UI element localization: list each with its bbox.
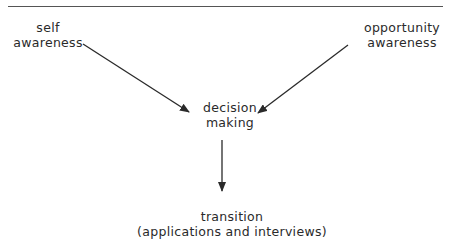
arrow-opportunity-to-decision bbox=[258, 45, 348, 113]
arrow-self-to-decision bbox=[83, 44, 189, 112]
edges-layer bbox=[0, 0, 449, 248]
